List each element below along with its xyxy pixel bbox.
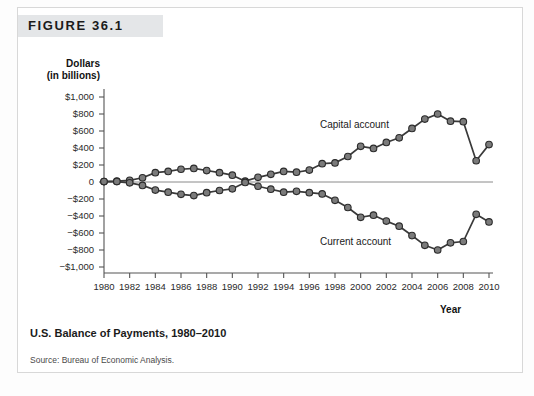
y-axis-tick-label: $1,000 <box>42 91 94 102</box>
y-axis-tick-label: −$200 <box>42 193 94 204</box>
y-axis-tick-label: $800 <box>42 108 94 119</box>
figure-caption: U.S. Balance of Payments, 1980–2010 <box>30 327 226 339</box>
y-axis-tick-label: $400 <box>42 142 94 153</box>
y-axis-tick-label: −$600 <box>42 227 94 238</box>
y-axis-tick-label: 0 <box>42 176 94 187</box>
figure-source: Source: Bureau of Economic Analysis. <box>30 355 174 365</box>
y-axis-title-line1: Dollars <box>66 58 100 69</box>
y-axis-tick-label: −$400 <box>42 210 94 221</box>
figure-label: FIGURE 36.1 <box>28 18 124 33</box>
x-axis-tick-label: 2010 <box>469 281 509 292</box>
series-label-capital-account: Capital account <box>320 119 389 130</box>
y-axis-tick-label: −$1,000 <box>42 261 94 272</box>
y-axis-title: Dollars (in billions) <box>30 58 100 82</box>
x-axis-title: Year <box>440 304 461 315</box>
y-axis-tick-label: −$800 <box>42 244 94 255</box>
y-axis-title-line2: (in billions) <box>47 70 100 81</box>
figure-page: FIGURE 36.1 Dollars (in billions) $1,000… <box>0 0 534 396</box>
y-axis-tick-label: $200 <box>42 159 94 170</box>
y-axis-tick-label: $600 <box>42 125 94 136</box>
series-label-current-account: Current account <box>320 236 391 247</box>
